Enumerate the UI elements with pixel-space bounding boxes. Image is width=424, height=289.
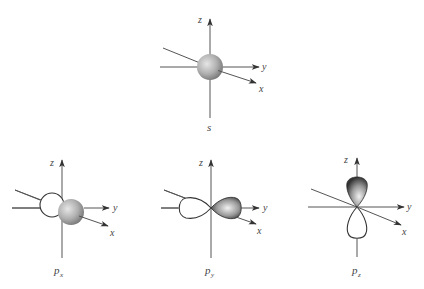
caption-px-subscript: x (59, 271, 64, 279)
x-axis-label: x (256, 225, 262, 236)
py-back-lobe (179, 198, 211, 219)
panel-py-orbital: z y x p y (161, 157, 268, 279)
x-axis-label: x (258, 83, 264, 94)
x-axis-label: x (109, 227, 115, 238)
pz-front-lobe (347, 177, 367, 207)
y-axis-label: y (112, 202, 118, 213)
caption-px: p (53, 264, 60, 276)
z-axis-label: z (197, 14, 202, 25)
caption-s: s (207, 121, 211, 133)
panel-s-orbital: z y x s (160, 14, 267, 133)
atomic-orbitals-diagram: z y x s z y x p x z y x p y (0, 0, 424, 289)
py-front-lobe (211, 197, 241, 218)
caption-py-subscript: y (210, 271, 215, 279)
pz-back-lobe (347, 207, 366, 238)
z-axis-label: z (198, 157, 203, 168)
z-axis-label: z (49, 157, 54, 168)
x-axis-back-overlay (15, 190, 40, 200)
x-axis (236, 217, 256, 224)
y-axis-label: y (406, 201, 412, 212)
x-axis-label: x (401, 226, 407, 237)
x-axis (79, 216, 108, 226)
s-orbital-sphere (197, 54, 223, 80)
y-axis-label: y (261, 61, 267, 72)
caption-py: p (204, 264, 211, 276)
x-axis (218, 71, 256, 84)
panel-pz-orbital: z y x p z (308, 154, 412, 279)
caption-pz-subscript: z (357, 271, 361, 279)
z-axis-label: z (343, 154, 348, 165)
caption-pz: p (351, 264, 358, 276)
y-axis-label: y (262, 202, 268, 213)
px-front-lobe (58, 199, 84, 225)
x-axis-back-overlay (164, 190, 185, 198)
panel-px-orbital: z y x p x (12, 157, 118, 279)
